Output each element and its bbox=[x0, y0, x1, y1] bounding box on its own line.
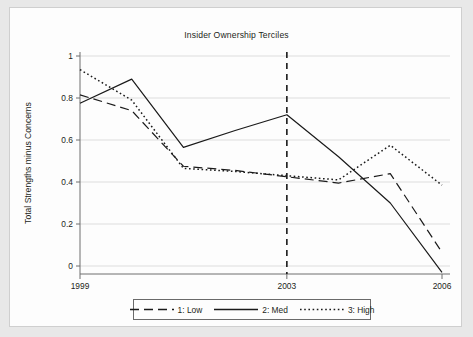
svg-text:0.8: 0.8 bbox=[61, 93, 73, 103]
legend-swatch-dotted bbox=[300, 306, 344, 313]
series-line-2-med bbox=[80, 79, 442, 272]
axes bbox=[80, 52, 450, 274]
chart-legend: 1: Low2: Med3: High bbox=[133, 299, 371, 320]
data-series bbox=[80, 70, 442, 273]
svg-text:0: 0 bbox=[68, 261, 73, 271]
svg-text:1999: 1999 bbox=[71, 281, 90, 291]
x-axis-ticks: 199920032006 bbox=[71, 274, 452, 291]
svg-text:2003: 2003 bbox=[278, 281, 297, 291]
svg-text:2006: 2006 bbox=[433, 281, 452, 291]
svg-text:0.4: 0.4 bbox=[61, 177, 73, 187]
series-line-3-high bbox=[80, 70, 442, 185]
legend-entry-3-high[interactable]: 3: High bbox=[300, 305, 375, 315]
legend-swatch-dashed bbox=[130, 306, 174, 313]
svg-text:1: 1 bbox=[68, 51, 73, 61]
legend-swatch-solid bbox=[214, 306, 258, 313]
legend-entry-2-med[interactable]: 2: Med bbox=[214, 305, 288, 315]
svg-text:0.2: 0.2 bbox=[61, 219, 73, 229]
svg-text:0.6: 0.6 bbox=[61, 135, 73, 145]
legend-label: 3: High bbox=[348, 305, 375, 315]
figure-panel: Insider Ownership Terciles 00.20.40.60.8… bbox=[9, 7, 462, 327]
legend-label: 2: Med bbox=[262, 305, 288, 315]
line-chart: 00.20.40.60.81 199920032006 Total Streng… bbox=[10, 8, 463, 328]
y-axis-ticks: 00.20.40.60.81 bbox=[61, 51, 80, 271]
legend-label: 1: Low bbox=[178, 305, 203, 315]
legend-entry-1-low[interactable]: 1: Low bbox=[130, 305, 203, 315]
y-axis-label: Total Strengths minus Concerns bbox=[23, 102, 33, 224]
gridlines bbox=[80, 56, 450, 266]
